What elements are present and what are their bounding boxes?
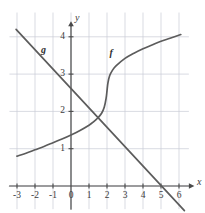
x-tick-label: -1 [43, 191, 63, 201]
y-tick-label: 4 [49, 32, 65, 42]
horizontal-gridlines [9, 37, 188, 186]
x-tick-label: -3 [7, 191, 27, 201]
y-tick-label: 1 [49, 144, 65, 154]
y-axis-label: y [75, 13, 79, 23]
x-tick-label: 1 [79, 191, 99, 201]
y-tick-label: 2 [49, 106, 65, 116]
curve-label-g: g [41, 45, 46, 55]
axes [9, 21, 194, 209]
x-tick-label: 0 [61, 191, 81, 201]
x-axis-arrowhead [189, 183, 195, 189]
graph-figure: x y g f -3-2-10123456 1234 [0, 0, 205, 213]
y-tick-label: 3 [49, 69, 65, 79]
curve-label-f: f [110, 48, 113, 58]
x-tick-label: 3 [115, 191, 135, 201]
x-tick-label: 5 [151, 191, 171, 201]
y-axis-arrowhead [68, 21, 74, 26]
plot-canvas [0, 0, 205, 213]
x-axis-label: x [197, 177, 201, 187]
x-tick-label: 6 [169, 191, 189, 201]
x-tick-label: 2 [97, 191, 117, 201]
x-tick-label: -2 [25, 191, 45, 201]
x-tick-label: 4 [133, 191, 153, 201]
curve-g-line [16, 29, 184, 210]
